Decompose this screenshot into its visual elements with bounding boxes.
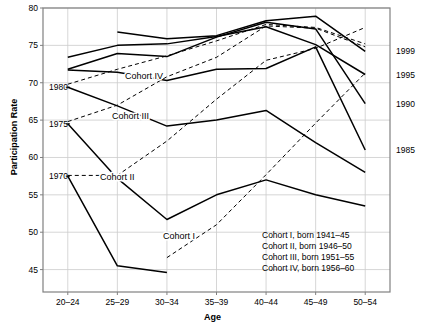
- legend-item: Cohort IV, born 1956–60: [262, 263, 355, 273]
- right-year-label: 1995: [396, 70, 415, 80]
- right-year-label: 1990: [396, 99, 415, 109]
- period-line: [117, 16, 365, 51]
- x-axis-title: Age: [0, 312, 425, 322]
- x-tick-label: 45–49: [304, 297, 328, 307]
- y-tick-label: 55: [29, 190, 39, 200]
- y-tick-label: 45: [29, 265, 39, 275]
- x-tick-label: 30–34: [155, 297, 179, 307]
- inline-cohort-label: Cohort IV: [125, 71, 163, 81]
- y-tick-label: 70: [29, 78, 39, 88]
- x-tick-label: 25–29: [106, 297, 130, 307]
- inline-cohort-label: Cohort II: [100, 172, 135, 182]
- y-tick-label: 75: [29, 40, 39, 50]
- y-tick-label: 80: [29, 3, 39, 13]
- inline-cohort-label: Cohort I: [163, 231, 195, 241]
- y-axis-title: Participation Rate: [9, 77, 19, 197]
- left-year-label: 1970: [49, 171, 68, 181]
- x-tick-label: 20–24: [56, 297, 80, 307]
- legend-item: Cohort II, born 1946–50: [262, 241, 352, 251]
- y-tick-label: 60: [29, 152, 39, 162]
- x-tick-label: 40–44: [254, 297, 278, 307]
- left-year-label: 1980: [49, 82, 68, 92]
- x-tick-label: 35–39: [205, 297, 229, 307]
- inline-cohort-label: Cohort III: [112, 111, 149, 121]
- y-tick-label: 50: [29, 227, 39, 237]
- y-tick-label: 65: [29, 115, 39, 125]
- plot-canvas: 455055606570758020–2425–2930–3435–3940–4…: [0, 0, 425, 328]
- legend-item: Cohort III, born 1951–55: [262, 252, 354, 262]
- right-year-label: 1999: [396, 46, 415, 56]
- participation-rate-chart: Participation Rate Age 45505560657075802…: [0, 0, 425, 328]
- x-tick-label: 50–54: [353, 297, 377, 307]
- right-year-label: 1985: [396, 145, 415, 155]
- legend-item: Cohort I, born 1941–45: [262, 230, 350, 240]
- left-year-label: 1975: [49, 119, 68, 129]
